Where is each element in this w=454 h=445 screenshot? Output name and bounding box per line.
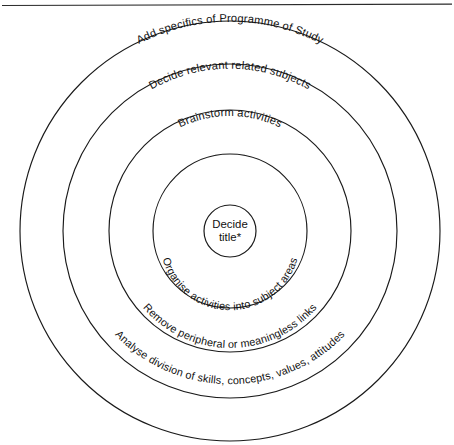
arc-label-analyse-division: Analyse division of skills, concepts, va… <box>113 327 347 386</box>
arc-label-organise-activities: Organise activities into subject areas <box>161 255 300 312</box>
center-label-line2: title* <box>219 231 242 243</box>
arc-label-ring3-top: Brainstorm activities <box>176 106 284 130</box>
top-horizontal-rule <box>2 4 452 5</box>
concentric-circles-figure: Add specifics of Programme of Study Deci… <box>0 0 454 445</box>
center-label-line1: Decide <box>212 218 247 230</box>
arc-label-ring2-top: Decide relevant related subjects <box>147 59 314 92</box>
concentric-diagram: Add specifics of Programme of Study Deci… <box>0 0 454 445</box>
arc-label-outer-top: Add specifics of Programme of Study <box>134 12 326 46</box>
